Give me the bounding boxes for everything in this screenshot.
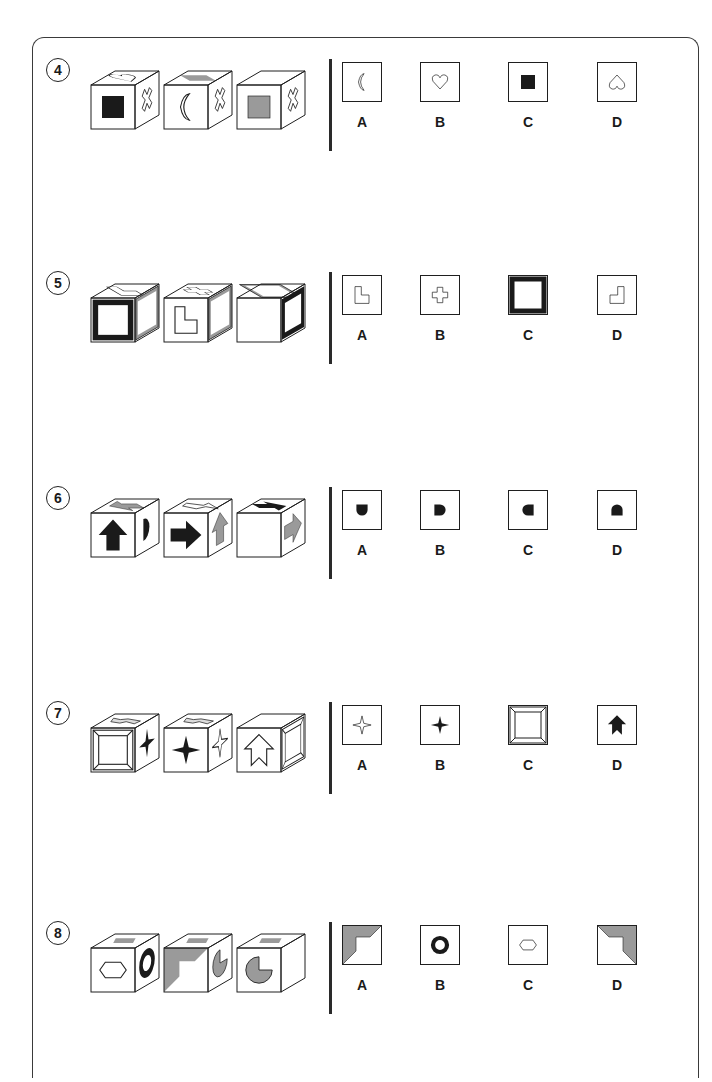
- cube-1: [90, 498, 161, 559]
- option-b[interactable]: B: [420, 275, 460, 343]
- option-symbol-icon: [420, 925, 460, 965]
- cube-3: [236, 70, 307, 131]
- option-symbol-icon: [420, 490, 460, 530]
- option-symbol-icon: [342, 925, 382, 965]
- cube-3: [236, 933, 307, 994]
- divider: [329, 702, 332, 794]
- option-b[interactable]: B: [420, 705, 460, 773]
- puzzle-4: 4 A: [0, 62, 712, 262]
- option-c[interactable]: C: [508, 490, 548, 558]
- option-label: B: [420, 757, 460, 773]
- option-c[interactable]: C: [508, 62, 548, 130]
- puzzle-6: 6 A: [0, 490, 712, 690]
- cube-1: [90, 713, 161, 774]
- cube-2: [163, 713, 234, 774]
- option-symbol-icon: [597, 705, 637, 745]
- cube-2: [163, 498, 234, 559]
- option-label: B: [420, 977, 460, 993]
- option-label: C: [508, 757, 548, 773]
- cube-2: [163, 70, 234, 131]
- question-number: 5: [46, 271, 70, 295]
- cube-3: [236, 713, 307, 774]
- cube-2: [163, 283, 234, 344]
- option-label: B: [420, 114, 460, 130]
- option-b[interactable]: B: [420, 490, 460, 558]
- option-a[interactable]: A: [342, 62, 382, 130]
- option-a[interactable]: A: [342, 925, 382, 993]
- option-symbol-icon: [342, 490, 382, 530]
- puzzle-7: 7 A: [0, 705, 712, 905]
- option-a[interactable]: A: [342, 705, 382, 773]
- option-label: C: [508, 114, 548, 130]
- option-c[interactable]: C: [508, 275, 548, 343]
- cube-1: [90, 933, 161, 994]
- cube-3: [236, 283, 307, 344]
- option-symbol-icon: [342, 705, 382, 745]
- option-d[interactable]: D: [597, 275, 637, 343]
- cube-2: [163, 933, 234, 994]
- option-symbol-icon: [508, 490, 548, 530]
- option-label: D: [597, 757, 637, 773]
- option-label: D: [597, 114, 637, 130]
- option-label: A: [342, 542, 382, 558]
- cube-3: [236, 498, 307, 559]
- option-d[interactable]: D: [597, 490, 637, 558]
- puzzle-5: 5 A: [0, 275, 712, 475]
- option-d[interactable]: D: [597, 925, 637, 993]
- option-symbol-icon: [508, 275, 548, 315]
- option-a[interactable]: A: [342, 275, 382, 343]
- option-b[interactable]: B: [420, 62, 460, 130]
- puzzle-8: 8 A: [0, 925, 712, 1082]
- option-label: B: [420, 542, 460, 558]
- option-c[interactable]: C: [508, 925, 548, 993]
- option-d[interactable]: D: [597, 62, 637, 130]
- divider: [329, 487, 332, 579]
- option-label: C: [508, 542, 548, 558]
- option-symbol-icon: [508, 62, 548, 102]
- cube-1: [90, 283, 161, 344]
- question-number: 7: [46, 701, 70, 725]
- option-symbol-icon: [342, 275, 382, 315]
- divider: [329, 272, 332, 364]
- option-a[interactable]: A: [342, 490, 382, 558]
- option-symbol-icon: [597, 62, 637, 102]
- option-symbol-icon: [597, 490, 637, 530]
- option-label: C: [508, 977, 548, 993]
- option-label: D: [597, 542, 637, 558]
- option-symbol-icon: [597, 275, 637, 315]
- option-c[interactable]: C: [508, 705, 548, 773]
- option-symbol-icon: [420, 275, 460, 315]
- option-symbol-icon: [597, 925, 637, 965]
- question-number: 4: [46, 58, 70, 82]
- option-symbol-icon: [508, 925, 548, 965]
- divider: [329, 922, 332, 1014]
- option-label: A: [342, 757, 382, 773]
- option-label: A: [342, 327, 382, 343]
- option-label: A: [342, 114, 382, 130]
- option-label: D: [597, 977, 637, 993]
- option-d[interactable]: D: [597, 705, 637, 773]
- question-number: 8: [46, 921, 70, 945]
- option-symbol-icon: [420, 62, 460, 102]
- option-label: B: [420, 327, 460, 343]
- option-label: D: [597, 327, 637, 343]
- question-number: 6: [46, 486, 70, 510]
- option-label: C: [508, 327, 548, 343]
- option-symbol-icon: [508, 705, 548, 745]
- option-symbol-icon: [420, 705, 460, 745]
- divider: [329, 59, 332, 151]
- cube-1: [90, 70, 161, 131]
- option-b[interactable]: B: [420, 925, 460, 993]
- option-label: A: [342, 977, 382, 993]
- option-symbol-icon: [342, 62, 382, 102]
